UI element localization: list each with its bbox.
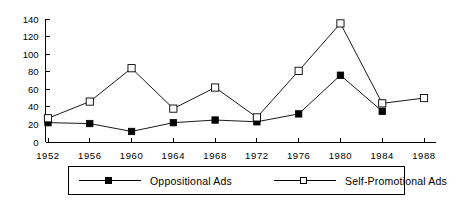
data-point-marker — [128, 128, 134, 134]
y-tick-label: 40 — [28, 101, 39, 112]
x-tick-label: 1960 — [120, 150, 144, 161]
filled-square-marker-icon — [79, 175, 141, 187]
legend-entry-oppositional-ads: Oppositional Ads — [79, 167, 232, 194]
data-point-marker — [253, 114, 260, 121]
x-tick-label: 1976 — [287, 150, 311, 161]
x-tick-label: 1956 — [78, 150, 102, 161]
chart-legend: Oppositional Ads Self-Promotional Ads — [68, 166, 405, 195]
data-point-marker — [295, 67, 302, 74]
data-point-marker — [379, 100, 386, 107]
x-tick-labels: 1952195619601964196819721976198019841988 — [36, 150, 436, 161]
data-point-marker — [337, 72, 343, 78]
data-series-group — [44, 20, 427, 135]
x-tick-label: 1980 — [329, 150, 353, 161]
y-tick-label: 100 — [23, 49, 39, 60]
data-point-marker — [212, 117, 218, 123]
series-self-promotional-ads — [44, 20, 427, 122]
data-point-marker — [170, 119, 176, 125]
y-tick-labels: 020406080100120140 — [23, 14, 39, 148]
data-point-marker — [87, 120, 93, 126]
x-tick-label: 1964 — [162, 150, 186, 161]
data-point-marker — [212, 84, 219, 91]
legend-label-self-promotional-ads: Self-Promotional Ads — [345, 175, 447, 187]
data-point-marker — [337, 20, 344, 27]
x-axis: 1952195619601964196819721976198019841988 — [36, 138, 436, 161]
x-tick-label: 1972 — [245, 150, 269, 161]
series-line — [48, 23, 424, 118]
data-point-marker — [86, 98, 93, 105]
data-point-marker — [420, 94, 427, 101]
x-tick-label: 1988 — [412, 150, 436, 161]
y-tick-label: 0 — [33, 137, 38, 148]
line-chart: 020406080100120140 195219561960196419681… — [0, 0, 458, 207]
x-tick-label: 1984 — [370, 150, 394, 161]
y-tick-label: 80 — [28, 66, 39, 77]
legend-label-oppositional-ads: Oppositional Ads — [150, 175, 232, 187]
data-point-marker — [170, 105, 177, 112]
data-point-marker — [379, 108, 385, 114]
x-tick-label: 1968 — [203, 150, 227, 161]
legend-entry-self-promotional-ads: Self-Promotional Ads — [274, 167, 447, 194]
data-point-marker — [295, 111, 301, 117]
data-point-marker — [44, 115, 51, 122]
legend-items: Oppositional Ads Self-Promotional Ads — [69, 167, 404, 194]
y-tick-label: 120 — [23, 31, 39, 42]
series-oppositional-ads — [45, 72, 386, 135]
data-point-marker — [128, 65, 135, 72]
y-axis: 020406080100120140 — [23, 14, 50, 148]
x-tick-label: 1952 — [36, 150, 60, 161]
y-tick-label: 60 — [28, 84, 39, 95]
open-square-marker-icon — [274, 175, 336, 187]
y-tick-label: 20 — [28, 119, 39, 130]
x-tick-marks — [48, 138, 424, 142]
y-tick-label: 140 — [23, 14, 39, 25]
